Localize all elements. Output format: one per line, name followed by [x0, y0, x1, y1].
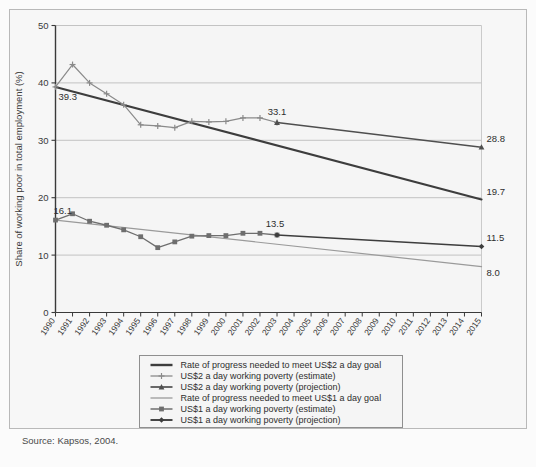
x-ticks-group: 1990199119921993199419951996199719981999… [38, 313, 483, 338]
x-tick-label-1996: 1996 [140, 316, 159, 337]
source-note-group: Source: Kapsos, 2004. [22, 435, 118, 446]
data-point-us1_estimate-1998 [189, 234, 194, 239]
y-tick-label-10: 10 [38, 250, 49, 261]
y-tick-label-50: 50 [38, 20, 49, 31]
x-tick-label-1990: 1990 [38, 316, 57, 337]
y-axis-label: Share of working poor in total employmen… [13, 71, 24, 266]
x-tick-label-1998: 1998 [174, 316, 193, 337]
plot-background [56, 26, 482, 313]
x-tick-label-2002: 2002 [243, 316, 262, 337]
y-tick-label-20: 20 [38, 192, 49, 203]
x-tick-label-2001: 2001 [226, 316, 245, 337]
x-tick-label-2000: 2000 [208, 316, 227, 337]
x-tick-label-1993: 1993 [89, 316, 108, 337]
legend-label-0: Rate of progress needed to meet US$2 a d… [181, 360, 382, 370]
y-axis-label-group: Share of working poor in total employmen… [13, 71, 24, 266]
data-point-us1_estimate-2002 [258, 231, 263, 236]
annotation-a2: 33.1 [268, 106, 287, 117]
x-tick-label-2004: 2004 [277, 316, 296, 337]
legend-label-2: US$2 a day working poverty (projection) [181, 382, 341, 392]
annotation-a3: 16.1 [54, 205, 73, 216]
x-tick-label-2006: 2006 [311, 316, 330, 337]
x-tick-label-2003: 2003 [260, 316, 279, 337]
x-tick-label-1997: 1997 [157, 316, 176, 337]
legend-item-0[interactable]: Rate of progress needed to meet US$2 a d… [151, 360, 382, 370]
x-tick-label-2005: 2005 [294, 316, 313, 337]
data-point-us1_estimate-1997 [172, 239, 177, 244]
x-tick-label-1995: 1995 [123, 316, 142, 337]
y-tick-label-30: 30 [38, 135, 49, 146]
x-tick-label-2013: 2013 [430, 316, 449, 337]
annotation-a6: 19.7 [487, 186, 506, 197]
annotation-a8: 8.0 [487, 267, 500, 278]
data-point-us1_estimate-1990 [53, 218, 58, 223]
data-point-us1_estimate-1995 [138, 234, 143, 239]
x-tick-label-2008: 2008 [345, 316, 364, 337]
x-tick-label-2014: 2014 [447, 316, 466, 337]
x-tick-label-2011: 2011 [396, 316, 415, 337]
data-point-us1_estimate-2001 [241, 231, 246, 236]
annotation-a5: 28.8 [487, 133, 506, 144]
x-tick-label-2015: 2015 [464, 316, 483, 337]
y-tick-label-40: 40 [38, 77, 49, 88]
data-point-us1_estimate-1992 [87, 219, 92, 224]
x-tick-label-1999: 1999 [191, 316, 210, 337]
annotation-a4: 13.5 [266, 218, 285, 229]
legend-label-5: US$1 a day working poverty (projection) [181, 415, 341, 425]
x-tick-label-2012: 2012 [413, 316, 432, 337]
line-chart: 01020304050 1990199119921993199419951996… [0, 0, 536, 467]
legend-label-4: US$1 a day working poverty (estimate) [181, 404, 336, 414]
x-tick-label-2009: 2009 [362, 316, 381, 337]
legend-item-3[interactable]: Rate of progress needed to meet US$1 a d… [151, 393, 382, 403]
source-note: Source: Kapsos, 2004. [22, 435, 118, 446]
legend-marker-square-4 [159, 407, 164, 412]
data-point-us1_estimate-1994 [121, 227, 126, 232]
annotation-a1: 39.3 [59, 91, 78, 102]
figure-container: 01020304050 1990199119921993199419951996… [0, 0, 536, 467]
data-point-us1_estimate-1999 [206, 233, 211, 238]
data-point-us1_estimate-1996 [155, 245, 160, 250]
x-tick-label-1992: 1992 [72, 316, 91, 337]
legend-label-1: US$2 a day working poverty (estimate) [181, 371, 336, 381]
x-tick-label-1991: 1991 [55, 316, 74, 337]
gridlines-group [56, 26, 482, 313]
plot-wrapper: 01020304050 1990199119921993199419951996… [0, 0, 536, 467]
x-tick-label-2007: 2007 [328, 316, 347, 337]
x-tick-label-2010: 2010 [379, 316, 398, 337]
legend-label-3: Rate of progress needed to meet US$1 a d… [181, 393, 382, 403]
data-point-us1_estimate-1993 [104, 223, 109, 228]
annotation-a7: 11.5 [487, 232, 505, 243]
y-ticks-group: 01020304050 [38, 20, 56, 318]
data-point-us1_estimate-2000 [224, 233, 229, 238]
x-tick-label-1994: 1994 [106, 316, 125, 337]
legend-group: Rate of progress needed to meet US$2 a d… [140, 356, 403, 428]
